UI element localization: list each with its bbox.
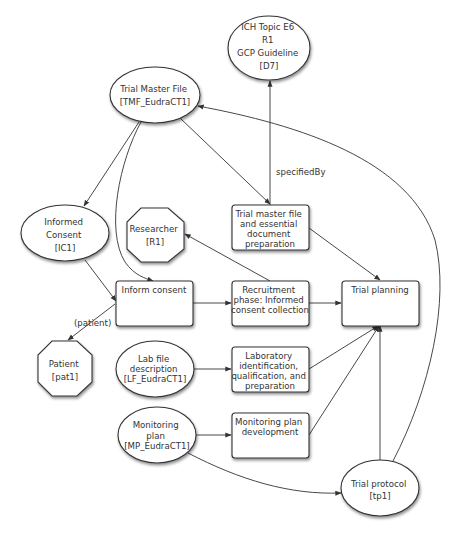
edge-mondev-to-planning[interactable]	[309, 326, 379, 435]
edge-tmf-to-tmfprep[interactable]	[180, 118, 270, 204]
edge-tmfprep-to-planning[interactable]	[309, 228, 380, 280]
node-trial-master-file[interactable]	[110, 67, 200, 123]
node-monitoring-dev-label: Monitoring plan development	[235, 417, 305, 437]
edge-label-specified-by: specifiedBy	[276, 167, 325, 177]
edge-label-patient: (patient)	[74, 318, 111, 328]
node-researcher[interactable]	[127, 208, 184, 262]
edge-tmf-to-informed-consent[interactable]	[84, 122, 139, 206]
edge-lab-to-planning[interactable]	[309, 326, 378, 369]
node-recruitment-label: Recruitment phase: Informed consent coll…	[231, 285, 309, 315]
provenance-diagram: specifiedBy (patient) ICH Topic E6 R1 GC…	[0, 0, 455, 538]
edge-informed-consent-to-inform-consent[interactable]	[85, 260, 116, 301]
node-inform-consent-activity-label: Inform consent	[122, 285, 187, 295]
edge-monplan-to-protocol[interactable]	[188, 453, 341, 493]
node-trial-planning-label: Trial planning	[350, 285, 409, 295]
